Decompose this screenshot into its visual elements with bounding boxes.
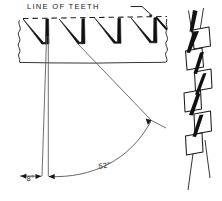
- left-break-line: [18, 21, 20, 63]
- saw-tooth-1: [23, 19, 49, 44]
- set-guide-line-right-lower: [205, 140, 210, 178]
- saw-tooth-4: [131, 18, 157, 43]
- hook-angle-arrowhead-left: [20, 174, 26, 179]
- angle-construction: [20, 36, 166, 179]
- back-angle-arc-arrowhead: [48, 174, 54, 179]
- back-angle-label: 52°: [98, 160, 112, 171]
- set-guide-line-lower: [188, 150, 194, 190]
- tooth-set-top-view: [184, 8, 212, 190]
- line-of-teeth-leader: [131, 7, 152, 16]
- right-break-line: [166, 19, 168, 62]
- saw-tooth-3: [95, 18, 121, 43]
- tooth-profile-side-view: [18, 7, 167, 64]
- saw-tooth-2: [59, 19, 85, 44]
- saw-tooth-geometry-drawing: LINE OF TEETH 8° 52°: [0, 0, 222, 201]
- line-of-teeth-label: LINE OF TEETH: [27, 2, 100, 11]
- hook-angle-label: 8°: [27, 174, 35, 183]
- blade-body-bottom-edge: [20, 62, 166, 63]
- hook-angle-arrowhead-right: [35, 174, 41, 179]
- diagram-canvas: LINE OF TEETH 8° 52°: [0, 0, 222, 201]
- back-angle-line: [78, 44, 152, 121]
- back-angle-line-extension: [152, 121, 167, 129]
- hook-angle-line: [42, 36, 47, 176]
- set-connector-0: [190, 10, 198, 32]
- saw-tooth-trailing-face: [157, 18, 167, 29]
